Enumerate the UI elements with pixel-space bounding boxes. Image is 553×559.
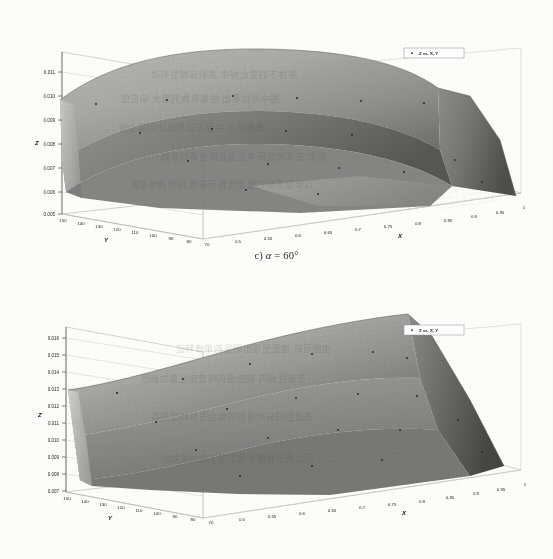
z-tick-c-6: 0.011 [44,70,56,75]
y-tick-c-6: 90 [169,236,174,241]
x-tick-c-1: 0.55 [264,236,273,241]
x-tick-d-5: 0.75 [388,502,397,507]
y-tick-c-7: 80 [187,239,192,244]
z-tick-d-7: 0.014 [48,370,60,375]
surface-plot-c-svg: 0.011 0.010 0.009 0.008 0.007 0.006 0.00… [0,0,553,248]
surface-plot-d-svg: 0.016 0.015 0.014 0.013 0.012 0.011 0.01… [0,280,553,528]
x-tick-c-6: 0.8 [415,221,422,226]
z-tick-d-0: 0.007 [48,489,60,494]
x-tick-d-8: 0.9 [473,491,480,496]
legend-d[interactable]: Z vs. X, Y [404,325,464,335]
y-tick-d-0: 150 [63,496,71,501]
y-tick-d-4: 110 [136,508,144,513]
z-axis-d: 0.016 0.015 0.014 0.013 0.012 0.011 0.01… [37,336,66,494]
x-tick-d-7: 0.85 [446,495,455,500]
x-tick-c-3: 0.65 [324,230,333,235]
x-tick-d-10: 1 [524,482,527,487]
figure-caption-c: c) α = 60° [0,250,553,261]
z-tick-d-3: 0.010 [48,438,60,443]
x-tick-d-6: 0.8 [419,499,426,504]
surface-mesh-c [40,40,540,225]
x-tick-d-4: 0.7 [359,505,366,510]
x-tick-c-4: 0.7 [355,227,362,232]
figure-caption-c-symbol: α [266,250,272,261]
x-tick-d-9: 0.95 [497,487,506,492]
z-tick-d-4: 0.011 [48,421,59,426]
y-tick-c-1: 140 [77,221,85,226]
x-tick-c-8: 0.9 [471,214,478,219]
y-axis-title-d: Y [108,515,113,521]
y-tick-c-5: 100 [149,233,157,238]
x-tick-d-2: 0.6 [299,511,306,516]
legend-label-c: Z vs. X, Y [419,51,438,56]
figure-d-alpha-90: 0.016 0.015 0.014 0.013 0.012 0.011 0.01… [0,280,553,559]
x-tick-c-0: 0.5 [235,239,242,244]
x-tick-d-3: 0.65 [328,508,337,513]
z-tick-c-4: 0.009 [44,118,56,123]
y-tick-d-3: 120 [117,505,125,510]
legend-dot-marker-d [411,329,413,331]
x-axis-title-d: X [401,510,407,516]
y-axis-d: 150 140 130 120 110 100 90 80 70 Y [63,496,214,525]
x-tick-d-1: 0.55 [268,514,277,519]
z-axis-title-d: Z [37,412,42,418]
z-tick-d-1: 0.008 [48,472,60,477]
y-axis-title-c: Y [104,237,109,243]
figure-caption-c-value: = 60° [274,250,298,261]
x-tick-d-0: 0.5 [239,517,246,522]
legend-dot-marker-c [411,52,413,54]
z-tick-c-3: 0.008 [44,142,56,147]
y-tick-d-8: 70 [209,520,214,525]
surface-plot-c: 0.011 0.010 0.009 0.008 0.007 0.006 0.00… [0,0,553,248]
z-tick-c-2: 0.007 [44,166,56,171]
figure-caption-c-prefix: c) [254,250,263,261]
y-tick-c-0: 150 [59,218,67,223]
figure-c-alpha-60: 0.011 0.010 0.009 0.008 0.007 0.006 0.00… [0,0,553,280]
y-tick-c-2: 130 [95,224,103,229]
y-tick-c-8: 70 [205,242,210,247]
x-tick-c-5: 0.75 [384,224,393,229]
surface-plot-d: 0.016 0.015 0.014 0.013 0.012 0.011 0.01… [0,280,553,528]
x-tick-c-2: 0.6 [295,233,302,238]
z-tick-d-5: 0.012 [48,404,60,409]
legend-label-d: Z vs. X, Y [419,328,438,333]
y-tick-d-6: 90 [173,514,178,519]
y-tick-d-2: 130 [99,502,107,507]
y-tick-d-5: 100 [153,511,161,516]
z-axis-title-c: Z [34,140,39,146]
x-axis-title-c: X [397,233,403,239]
x-tick-c-7: 0.85 [444,218,453,223]
y-tick-c-3: 120 [113,227,121,232]
z-tick-d-8: 0.015 [48,353,60,358]
y-tick-d-7: 80 [191,517,196,522]
z-tick-d-2: 0.009 [48,455,60,460]
z-tick-c-5: 0.010 [44,94,56,99]
legend-c[interactable]: Z vs. X, Y [404,48,464,58]
z-axis-c: 0.011 0.010 0.009 0.008 0.007 0.006 0.00… [34,70,62,217]
z-tick-d-6: 0.013 [48,387,60,392]
x-tick-c-9: 0.95 [496,210,505,215]
x-tick-c-10: 1 [523,205,526,210]
y-tick-d-1: 140 [81,499,89,504]
y-tick-c-4: 110 [132,230,140,235]
z-tick-d-9: 0.016 [48,336,60,341]
z-tick-c-1: 0.006 [44,190,56,195]
z-tick-c-0: 0.005 [44,212,56,217]
y-axis-c: 150 140 130 120 110 100 90 80 70 Y [59,218,210,247]
